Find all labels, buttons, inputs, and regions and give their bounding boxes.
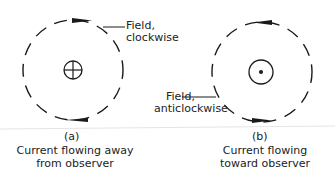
arrow-left-icon: [253, 20, 272, 25]
arrow-left-icon: [66, 118, 88, 122]
field-label-a: Field, clockwise: [126, 20, 179, 44]
cross-in-circle-icon: [64, 61, 82, 79]
field-label-b: Field, anticlockwise: [166, 91, 228, 115]
caption-b-line1: Current flowing: [215, 144, 315, 157]
panel-tag-a: (a): [64, 130, 79, 143]
divider-line: [0, 126, 335, 129]
field-label-b-line2: anticlockwise: [154, 103, 228, 115]
dot-in-circle-icon: [249, 60, 273, 84]
field-label-a-line2: clockwise: [126, 32, 179, 44]
caption-a-line2: from observer: [15, 157, 135, 170]
caption-b: Current flowing toward observer: [215, 144, 315, 170]
caption-b-line2: toward observer: [215, 157, 315, 170]
caption-a-line1: Current flowing away: [15, 144, 135, 157]
panel-tag-b: (b): [252, 130, 268, 143]
arrow-right-icon: [252, 118, 272, 123]
caption-a: Current flowing away from observer: [15, 144, 135, 170]
arrow-right-icon: [72, 18, 92, 23]
